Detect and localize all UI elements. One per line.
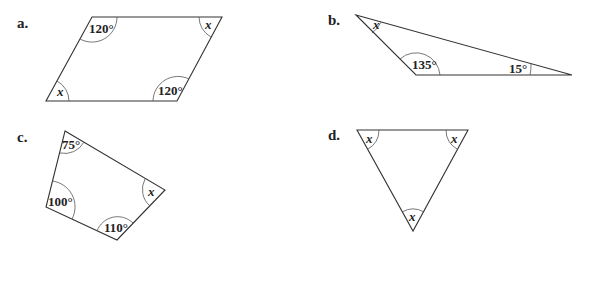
figure-c-label: c. [17,129,28,145]
figure-b-label: b. [328,12,340,28]
figure-a-label: a. [17,15,29,31]
angle-label-75: 75° [62,137,80,152]
angle-label-x-top-right: x [450,131,458,146]
angle-label-120-bottom: 120° [158,83,183,98]
figure-a: a. 120° x 120° x [17,15,222,101]
figure-d-label: d. [328,127,340,143]
angle-label-x: x [147,184,155,199]
figure-c: c. 75° x 110° 100° [17,129,165,240]
angle-label-100: 100° [48,194,73,209]
figure-b: b. x 15° 135° [328,12,572,76]
angle-label-135: 135° [412,57,437,72]
angle-label-110: 110° [104,220,128,235]
angle-label-x-bottom: x [408,209,416,224]
angle-arc-15 [530,64,531,75]
angle-label-x-bottom-left: x [56,84,64,99]
figure-d: d. x x x [328,127,468,231]
parallelogram-shape [46,17,222,101]
triangle-b-shape [356,15,572,75]
angle-label-x-top-left: x [365,131,373,146]
angle-label-x-top-right: x [204,17,212,32]
angle-label-x: x [372,17,380,32]
angle-label-120-top: 120° [89,21,114,36]
angle-label-15: 15° [509,61,527,76]
geometry-figures-canvas: a. 120° x 120° x b. x 15° 135° c. 75° x … [0,0,595,297]
